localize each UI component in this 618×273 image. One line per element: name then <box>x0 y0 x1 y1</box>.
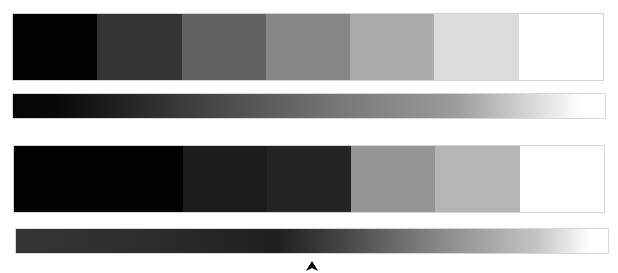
top-swatch-7 <box>519 14 603 80</box>
bottom-swatch-4 <box>267 146 351 212</box>
bottom-gradient-bar <box>15 228 609 254</box>
top-swatch-row <box>12 13 604 81</box>
top-swatch-6 <box>434 14 518 80</box>
top-swatch-3 <box>182 14 266 80</box>
bottom-swatch-1 <box>14 146 98 212</box>
top-swatch-2 <box>97 14 181 80</box>
bottom-swatch-row <box>13 145 605 213</box>
top-gradient-bar <box>12 93 606 119</box>
bottom-swatch-3 <box>183 146 267 212</box>
bottom-swatch-7 <box>520 146 604 212</box>
bottom-swatch-2 <box>98 146 182 212</box>
top-swatch-1 <box>13 14 97 80</box>
arrowhead-up-icon <box>306 261 318 271</box>
bottom-swatch-6 <box>435 146 519 212</box>
bottom-swatch-5 <box>351 146 435 212</box>
top-swatch-5 <box>350 14 434 80</box>
top-swatch-4 <box>266 14 350 80</box>
